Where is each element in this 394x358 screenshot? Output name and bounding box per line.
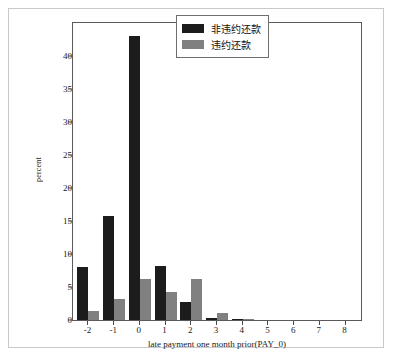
x-tick-label-3: 3 (214, 325, 219, 335)
legend-label: 违约还款 (211, 37, 251, 52)
x-tick-mark (242, 321, 243, 325)
x-tick-mark (190, 321, 191, 325)
bar-1-series0 (155, 266, 166, 320)
x-tick-mark (345, 321, 346, 325)
legend-item: 违约还款 (182, 37, 261, 52)
x-tick-mark (139, 321, 140, 325)
legend-item: 非违约还款 (182, 21, 261, 36)
y-axis: 0510152025303540 (42, 22, 72, 321)
x-tick-mark (216, 321, 217, 325)
bar-4-series0 (232, 319, 243, 320)
x-axis-title: late payment one month prior(PAY_0) (72, 339, 362, 349)
x-tick-mark (319, 321, 320, 325)
x-tick-label-5: 5 (265, 325, 270, 335)
bar-1-series1 (166, 292, 177, 320)
bar-2-series0 (180, 302, 191, 320)
figure-frame: percent 0510152025303540 -2-1012345678 l… (8, 8, 384, 348)
x-tick-mark (293, 321, 294, 325)
bar-4-series1 (243, 319, 254, 320)
bar-neg1-series1 (114, 299, 125, 320)
x-tick-label-6: 6 (291, 325, 296, 335)
bar-neg2-series1 (88, 311, 99, 320)
x-tick-label-4: 4 (239, 325, 244, 335)
legend-swatch-icon (182, 24, 204, 33)
x-tick-label-7: 7 (317, 325, 322, 335)
x-tick-mark (267, 321, 268, 325)
bar-neg1-series0 (103, 216, 114, 320)
legend-swatch-icon (182, 40, 204, 49)
bar-neg2-series0 (77, 267, 88, 320)
legend-label: 非违约还款 (211, 21, 261, 36)
bar-0-series1 (140, 279, 151, 320)
plot-area (72, 22, 362, 321)
bar-0-series0 (129, 36, 140, 320)
x-tick-mark (87, 321, 88, 325)
x-tick-label-8: 8 (342, 325, 347, 335)
x-tick-label-neg1: -1 (109, 325, 117, 335)
bar-3-series1 (217, 313, 228, 320)
x-tick-label-neg2: -2 (84, 325, 92, 335)
x-tick-mark (113, 321, 114, 325)
x-tick-label-1: 1 (162, 325, 167, 335)
x-axis: -2-1012345678 (72, 321, 362, 337)
x-tick-label-0: 0 (137, 325, 142, 335)
x-tick-mark (165, 321, 166, 325)
chart-legend: 非违约还款 违约还款 (176, 15, 269, 58)
bar-3-series0 (206, 318, 217, 320)
bar-2-series1 (191, 279, 202, 320)
x-tick-label-2: 2 (188, 325, 193, 335)
